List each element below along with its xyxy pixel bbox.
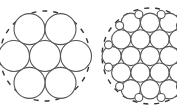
packed-circle [150, 30, 169, 49]
packed-circle [61, 41, 92, 72]
packed-circle [112, 63, 131, 82]
filler-circle [157, 94, 165, 102]
circle-packing-diagram [0, 0, 177, 112]
filler-circle [157, 10, 165, 18]
filler-circle [135, 94, 143, 102]
filler-circle [104, 63, 112, 71]
packed-circle [102, 46, 121, 65]
packed-circle [112, 30, 131, 49]
filler-circle [104, 41, 112, 49]
packed-circle [45, 67, 76, 98]
packed-circle [0, 41, 30, 72]
packed-circle [140, 80, 159, 99]
packed-circle [30, 41, 61, 72]
packed-circle [140, 46, 159, 65]
filler-circle [116, 22, 124, 30]
packed-circle [45, 14, 76, 45]
filler-circle [116, 82, 124, 90]
packed-circle [121, 46, 140, 65]
packed-circle [131, 63, 150, 82]
packed-circle [14, 14, 45, 45]
packed-circle [14, 67, 45, 98]
packed-circle [131, 30, 150, 49]
filler-circle [135, 10, 143, 18]
packed-circle [140, 13, 159, 32]
packed-circle [150, 63, 169, 82]
packed-circle [160, 46, 177, 65]
